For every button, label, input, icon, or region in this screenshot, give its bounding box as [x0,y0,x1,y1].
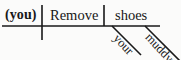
subject-word: (you) [5,8,37,22]
sentence-diagram: (you) Remove shoes your muddy [0,0,181,60]
verb-word: Remove [50,8,98,23]
direct-object-word: shoes [115,8,147,23]
